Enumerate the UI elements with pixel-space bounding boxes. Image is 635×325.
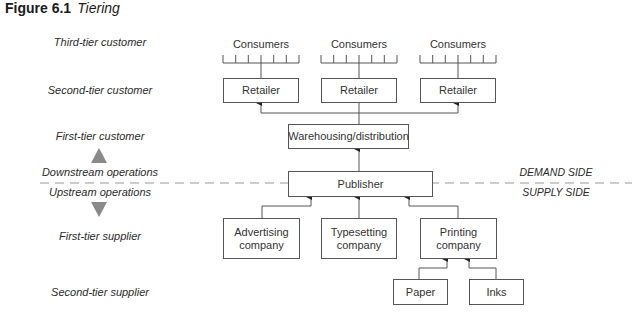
retailer-label: Retailer	[439, 84, 477, 97]
up-triangle-icon	[91, 148, 107, 163]
down-triangle-icon	[91, 202, 107, 217]
retailer-box-1: Retailer	[223, 78, 299, 103]
consumers-label-2: Consumers	[331, 38, 387, 50]
inks-label: Inks	[486, 286, 506, 299]
printing-company-box: Printing company	[420, 218, 497, 259]
consumers-label-1: Consumers	[233, 38, 289, 50]
retailer-label: Retailer	[242, 84, 280, 97]
paper-box: Paper	[393, 279, 448, 305]
advertising-company-label: Advertising company	[230, 226, 293, 252]
paper-label: Paper	[406, 286, 435, 299]
typesetting-company-box: Typesetting company	[321, 218, 397, 259]
inks-box: Inks	[469, 279, 524, 305]
publisher-box: Publisher	[288, 171, 433, 197]
consumer-rake-1	[223, 55, 299, 78]
retailer-label: Retailer	[340, 84, 378, 97]
warehousing-label: Warehousing/distribution	[288, 130, 409, 143]
consumer-rake-3	[420, 55, 496, 78]
retailer-box-2: Retailer	[321, 78, 397, 103]
warehousing-box: Warehousing/distribution	[288, 124, 409, 149]
consumers-label-3: Consumers	[430, 38, 486, 50]
consumer-rake-2	[321, 55, 397, 78]
advertising-company-box: Advertising company	[223, 218, 300, 259]
typesetting-company-label: Typesetting company	[328, 226, 390, 252]
retailer-box-3: Retailer	[420, 78, 496, 103]
connector-lines	[0, 0, 635, 325]
printing-company-label: Printing company	[431, 226, 486, 252]
publisher-label: Publisher	[338, 178, 384, 191]
